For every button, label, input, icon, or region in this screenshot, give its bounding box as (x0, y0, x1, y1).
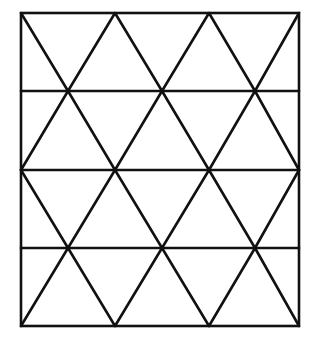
diagonal-line (115, 13, 162, 91)
diagonal-line (162, 170, 209, 248)
diagonal-line (209, 248, 255, 326)
diagonal-line (21, 248, 68, 326)
diagonal-line (21, 91, 68, 170)
diagonal-line (209, 91, 255, 170)
diagonal-line (162, 248, 209, 326)
triangle-grid-diagram (0, 0, 318, 344)
diagonal-line (21, 170, 68, 248)
horizontal-lines (21, 91, 299, 248)
diagonal-line (162, 91, 209, 170)
diagonal-line (255, 91, 299, 170)
diagonal-line (115, 248, 162, 326)
diagonal-line (209, 170, 255, 248)
diagonal-line (115, 91, 162, 170)
diagonal-line (115, 170, 162, 248)
diagonal-line (162, 13, 209, 91)
triangle-grid-svg (0, 0, 318, 344)
diagonal-line (68, 91, 115, 170)
diagonal-line (255, 170, 299, 248)
diagonal-line (255, 248, 299, 326)
diagonal-line (68, 170, 115, 248)
diagonal-line (255, 13, 299, 91)
diagonal-line (209, 13, 255, 91)
diagonal-line (68, 248, 115, 326)
diagonal-line (68, 13, 115, 91)
diagonal-line (21, 13, 68, 91)
